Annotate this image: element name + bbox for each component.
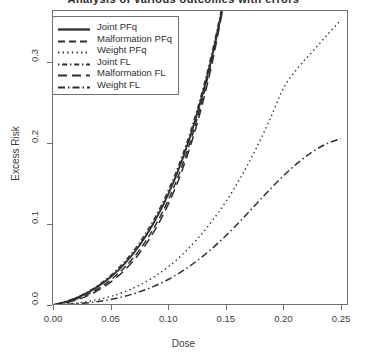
y-axis-label: Excess Risk [10, 109, 21, 199]
series-line-weight-fl [53, 139, 341, 304]
legend-line-sample-icon [57, 33, 91, 44]
legend-item-malformation-pfq[interactable]: Malformation PFq [57, 33, 172, 45]
legend-line-sample-icon [57, 67, 91, 78]
legend-line-sample-icon [57, 79, 91, 90]
x-tick-mark [283, 305, 284, 310]
legend-line-sample-icon [57, 44, 91, 55]
y-tick-mark [47, 143, 52, 144]
y-tick-label: 0.1 [29, 206, 40, 230]
chart-figure: Analysis of various outcomes with errors… [0, 0, 367, 360]
legend-label: Joint FL [97, 56, 131, 67]
legend-item-malformation-fl[interactable]: Malformation FL [57, 67, 172, 79]
x-tick-label: 0.10 [159, 313, 178, 324]
x-tick-label: 0.00 [44, 313, 63, 324]
x-tick-mark [111, 305, 112, 310]
x-tick-label: 0.20 [274, 313, 293, 324]
y-tick-label: 0.3 [29, 44, 40, 68]
y-tick-mark [47, 224, 52, 225]
x-tick-mark [53, 305, 54, 310]
legend-line-sample-icon [57, 56, 91, 67]
legend-item-joint-fl[interactable]: Joint FL [57, 56, 172, 68]
x-tick-mark [168, 305, 169, 310]
x-tick-mark [226, 305, 227, 310]
chart-title: Analysis of various outcomes with errors [0, 0, 367, 5]
y-tick-label: 0.2 [29, 125, 40, 149]
legend-item-joint-pfq[interactable]: Joint PFq [57, 21, 172, 33]
legend-label: Malformation PFq [97, 33, 172, 44]
x-tick-label: 0.15 [217, 313, 236, 324]
x-axis-label: Dose [0, 338, 367, 349]
legend-label: Weight PFq [97, 44, 146, 55]
y-tick-mark [47, 62, 52, 63]
legend-label: Joint PFq [97, 21, 137, 32]
y-tick-mark [47, 305, 52, 306]
y-tick-label: 0.0 [29, 287, 40, 311]
x-tick-label: 0.25 [332, 313, 351, 324]
legend-item-weight-fl[interactable]: Weight FL [57, 79, 172, 91]
x-tick-mark [341, 305, 342, 310]
x-tick-label: 0.05 [101, 313, 120, 324]
legend-label: Weight FL [97, 79, 140, 90]
legend-label: Malformation FL [97, 67, 166, 78]
chart-legend: Joint PFqMalformation PFqWeight PFqJoint… [52, 16, 179, 95]
legend-item-weight-pfq[interactable]: Weight PFq [57, 44, 172, 56]
legend-line-sample-icon [57, 21, 91, 32]
